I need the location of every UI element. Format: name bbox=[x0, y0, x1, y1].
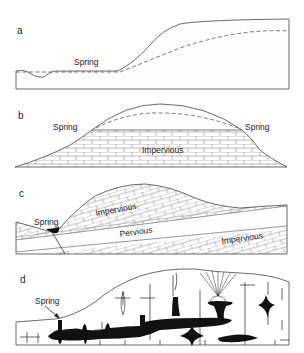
panel-b-letter: b bbox=[18, 110, 24, 121]
panel-c-spring-label: Spring bbox=[34, 217, 59, 227]
panel-c: c Spring Impervious Pervious Impervious bbox=[16, 180, 288, 256]
spring-types-diagram: a Spring b Spring Spring Impervious c Sp… bbox=[0, 0, 304, 353]
panel-d: d Spring bbox=[16, 269, 289, 346]
panel-b-spring-left-label: Spring bbox=[53, 122, 78, 132]
panel-b: b Spring Spring Impervious bbox=[15, 104, 287, 167]
panel-d-sinkhole-rays bbox=[200, 271, 236, 296]
panel-a-sediment bbox=[16, 19, 289, 89]
panel-d-letter: d bbox=[20, 274, 26, 285]
panel-a: a Spring bbox=[16, 19, 289, 89]
panel-d-solution-cavities bbox=[48, 295, 275, 346]
panel-c-letter: c bbox=[19, 188, 24, 199]
panel-b-spring-right-label: Spring bbox=[245, 122, 270, 132]
panel-a-letter: a bbox=[17, 25, 23, 36]
panel-b-impervious-label: Impervious bbox=[142, 145, 184, 155]
panel-a-spring-label: Spring bbox=[74, 57, 99, 67]
panel-d-spring-label: Spring bbox=[35, 296, 60, 306]
